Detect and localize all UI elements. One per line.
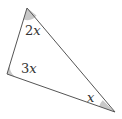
triangle-outline: [7, 8, 115, 112]
triangle-diagram: 2x 3x x: [0, 0, 122, 119]
angle-label-top-coef: 2: [25, 23, 33, 38]
angle-label-right-var: x: [87, 90, 95, 105]
angle-label-right: x: [87, 90, 95, 105]
angle-label-left-var: x: [29, 61, 37, 76]
angle-label-top: 2x: [25, 23, 41, 38]
angle-label-left: 3x: [21, 61, 37, 76]
angle-label-left-coef: 3: [21, 61, 29, 76]
angle-label-top-var: x: [33, 23, 41, 38]
